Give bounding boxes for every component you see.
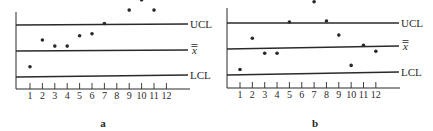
lcl-line [227,72,399,75]
x-tick-label: 9 [127,90,132,101]
x-ticks: 123456789101112 [28,83,172,101]
x-tick-label: 2 [40,90,45,101]
x-tick-label: 10 [346,89,356,100]
control-chart-b: UCL x LCL 123456789101112 b [227,0,423,129]
data-point [140,0,144,2]
data-point [288,20,292,24]
data-point [374,50,378,54]
data-point [28,65,32,69]
x-tick-label: 4 [65,90,70,101]
x-tick-label: 6 [299,89,304,100]
x-tick-label: 8 [114,90,119,101]
control-chart-a: UCL x LCL 123456789101112 a [16,0,212,129]
svg-text:x: x [402,40,408,52]
x-tick-label: 4 [275,89,280,100]
data-point [152,8,156,12]
x-tick-label: 12 [161,90,171,101]
x-tick-label: 1 [238,89,243,100]
data-point [90,32,94,36]
control-charts: UCL x LCL 123456789101112 a UCL x LCL 12… [0,0,433,131]
lcl-line [16,75,188,77]
data-point [337,33,341,37]
mean-label: x [191,44,198,56]
ucl-label: UCL [190,18,212,30]
data-point [251,36,255,40]
x-tick-label: 9 [336,89,341,100]
ucl-label: UCL [401,17,423,29]
svg-text:x: x [191,44,197,56]
data-point [65,44,69,48]
data-points [238,0,377,71]
data-point [103,22,107,26]
x-tick-label: 11 [359,89,369,100]
x-tick-label: 3 [52,90,57,101]
x-tick-label: 5 [287,89,292,100]
mean-label: x [402,40,409,52]
data-point [312,0,316,4]
data-point [349,64,353,68]
data-point [362,43,366,47]
data-point [238,68,242,72]
x-tick-label: 2 [250,89,255,100]
data-point [127,8,131,12]
data-point [78,34,82,38]
x-tick-label: 1 [28,90,33,101]
lcl-label: LCL [401,66,422,78]
x-tick-label: 11 [149,90,159,101]
x-tick-label: 8 [324,89,329,100]
panel-caption: b [312,117,318,129]
x-tick-label: 7 [312,89,317,100]
data-point [275,52,279,56]
lcl-label: LCL [190,69,211,81]
panel-caption: a [100,117,106,129]
mean-line [16,50,188,51]
data-point [263,52,267,56]
x-tick-label: 5 [77,90,82,101]
x-tick-label: 10 [137,90,147,101]
ucl-line [16,24,188,25]
x-tick-label: 6 [90,90,95,101]
data-point [325,19,329,23]
data-points [28,0,168,68]
x-tick-label: 7 [102,90,107,101]
data-point [53,44,57,48]
x-tick-label: 3 [262,89,267,100]
data-point [41,38,45,42]
x-ticks: 123456789101112 [238,82,381,100]
x-tick-label: 12 [371,89,381,100]
mean-line [227,46,399,49]
